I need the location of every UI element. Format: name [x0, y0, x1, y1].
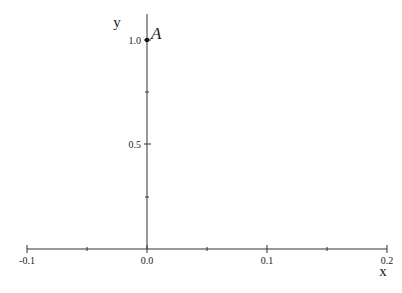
- chart: -0.1 0.0 0.1 0.2 x 1.0 0.5 y A: [0, 0, 402, 293]
- x-axis-label: x: [379, 263, 387, 279]
- data-point-a: [145, 38, 150, 43]
- x-tick-label: -0.1: [19, 255, 35, 266]
- x-tick-label: 0.0: [141, 255, 154, 266]
- y-tick-label: 1.0: [129, 35, 142, 46]
- y-axis-label: y: [113, 14, 121, 30]
- x-tick-label: 0.1: [261, 255, 274, 266]
- y-tick-label: 0.5: [129, 139, 142, 150]
- point-label-a: A: [150, 24, 162, 43]
